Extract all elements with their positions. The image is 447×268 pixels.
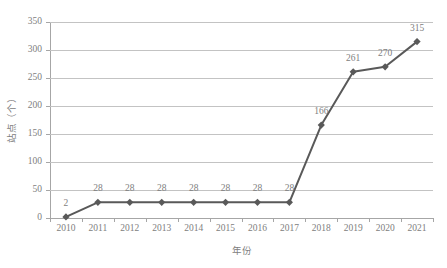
line-chart: 站点（个） 050100150200250300350 201020112012… (0, 0, 447, 268)
data-point-marker (62, 213, 69, 220)
data-point-marker (94, 199, 101, 206)
data-point-label: 2 (46, 199, 86, 209)
data-point-marker (222, 199, 229, 206)
data-point-marker (158, 199, 165, 206)
x-axis-title: 年份 (50, 243, 433, 257)
data-point-label: 270 (365, 49, 405, 59)
data-point-label: 28 (269, 184, 309, 194)
data-point-marker (126, 199, 133, 206)
data-point-label: 315 (397, 24, 437, 34)
data-point-label: 166 (301, 107, 341, 117)
data-point-marker (190, 199, 197, 206)
data-point-marker (254, 199, 261, 206)
series-layer (0, 0, 447, 268)
data-point-marker (286, 199, 293, 206)
